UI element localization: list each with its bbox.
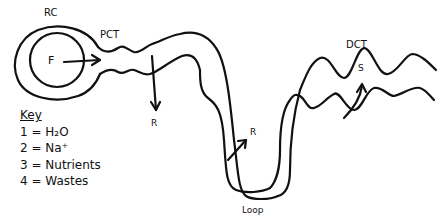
pct-label: PCT bbox=[100, 30, 119, 40]
loop-ascending-outer bbox=[278, 48, 436, 196]
loop-ascending-inner bbox=[270, 88, 434, 188]
key-item-water: 1 = H₂O bbox=[20, 124, 101, 141]
loop-label: Loop bbox=[242, 206, 264, 215]
reabsorption-arrow-1 bbox=[152, 56, 156, 110]
secretion-label: S bbox=[358, 64, 364, 73]
renal-corpuscle-outer bbox=[15, 27, 100, 100]
reabsorption-label-1: R bbox=[151, 119, 157, 128]
pct-lower-wall bbox=[100, 55, 270, 192]
key-item-wastes: 4 = Wastes bbox=[20, 173, 101, 190]
pct-upper-wall bbox=[98, 33, 278, 199]
key-item-nutrients: 3 = Nutrients bbox=[20, 157, 101, 174]
filtration-label: F bbox=[48, 55, 54, 66]
dct-label: DCT bbox=[346, 40, 367, 50]
reabsorption-label-2: R bbox=[250, 128, 256, 137]
filtration-arrow bbox=[64, 60, 100, 62]
renal-corpuscle-label: RC bbox=[44, 8, 57, 18]
key-title: Key bbox=[20, 107, 101, 124]
key-item-sodium: 2 = Na⁺ bbox=[20, 140, 101, 157]
glomerulus bbox=[30, 33, 84, 87]
secretion-arrow bbox=[344, 86, 362, 118]
key-legend: Key 1 = H₂O 2 = Na⁺ 3 = Nutrients 4 = Wa… bbox=[20, 107, 101, 190]
